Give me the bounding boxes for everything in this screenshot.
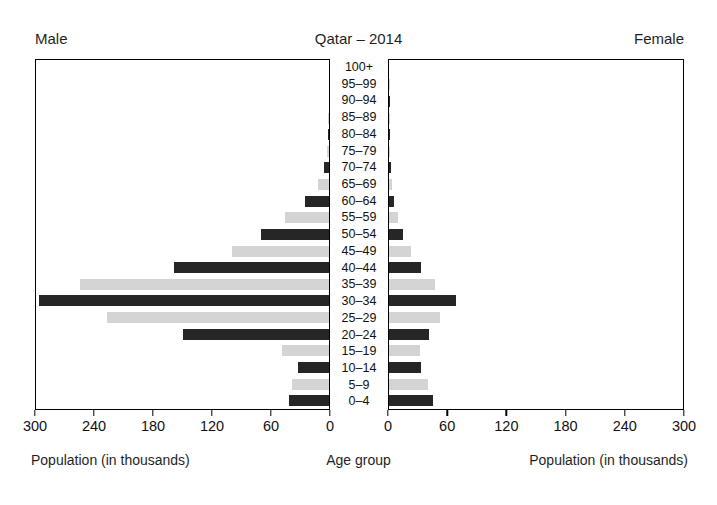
axis-tick [93,410,94,416]
bar-row [36,376,329,393]
axis-tick-label: 120 [200,418,224,434]
male-plot-panel [35,59,330,410]
male-bar-15-19 [282,345,329,356]
male-bar-65-69 [318,179,329,190]
male-bar-0-4 [289,395,329,406]
bar-row [36,392,329,409]
age-group-label: 80–84 [330,126,388,143]
bar-row [389,210,683,227]
male-bar-45-49 [232,246,329,257]
axis-tick [565,410,566,416]
female-bar-60-64 [389,196,394,207]
male-bar-80-84 [328,129,329,140]
population-pyramid-figure: Male Qatar – 2014 Female 0–45–910–1415–1… [0,0,717,505]
bar-row [389,77,683,94]
axis-tick-label: 240 [613,418,637,434]
male-bar-30-34 [39,295,329,306]
bar-row [36,343,329,360]
bar-row [36,226,329,243]
bar-row [389,293,683,310]
bar-row [389,343,683,360]
age-group-label: 75–79 [330,143,388,160]
bar-row [36,293,329,310]
male-bar-55-59 [285,212,329,223]
age-group-label: 35–39 [330,276,388,293]
bar-row [389,176,683,193]
age-group-label: 60–64 [330,193,388,210]
bar-row [36,243,329,260]
bar-row [36,193,329,210]
bar-row [389,359,683,376]
bar-row [36,309,329,326]
axis-tick-label: 60 [263,418,279,434]
axis-tick [329,410,330,416]
male-bar-25-29 [107,312,329,323]
age-group-label: 30–34 [330,293,388,310]
bar-row [389,276,683,293]
female-bar-50-54 [389,229,403,240]
male-bar-50-54 [261,229,329,240]
bar-row [389,392,683,409]
bar-row [36,326,329,343]
axis-tick [446,410,447,416]
age-group-label: 55–59 [330,209,388,226]
female-bar-40-44 [389,262,421,273]
female-bar-35-39 [389,279,435,290]
female-bar-80-84 [389,129,390,140]
axis-tick [270,410,271,416]
bar-row [36,259,329,276]
bar-row [389,60,683,77]
age-group-label: 50–54 [330,226,388,243]
female-bar-75-79 [389,146,390,157]
axis-tick-label: 120 [494,418,518,434]
female-header-label: Female [634,30,684,47]
female-bar-15-19 [389,345,420,356]
female-bar-0-4 [389,395,433,406]
female-bar-45-49 [389,246,411,257]
bar-row [36,110,329,127]
bar-row [36,143,329,160]
female-bar-5-9 [389,379,428,390]
axis-tick [211,410,212,416]
bar-row [389,110,683,127]
male-bar-40-44 [174,262,329,273]
axis-tick-label: 0 [384,418,392,434]
bar-row [36,160,329,177]
age-group-label: 5–9 [330,377,388,394]
age-group-label: 10–14 [330,360,388,377]
female-bar-rows [389,60,683,409]
bar-row [389,93,683,110]
bar-row [36,60,329,77]
male-bar-35-39 [80,279,329,290]
axis-tick [34,410,35,416]
female-bar-10-14 [389,362,421,373]
axis-tick-label: 300 [23,418,47,434]
female-bar-25-29 [389,312,440,323]
male-bar-rows [36,60,329,409]
age-group-label: 85–89 [330,109,388,126]
axis-tick-label: 60 [439,418,455,434]
axis-tick-label: 240 [82,418,106,434]
axis-tick-label: 180 [141,418,165,434]
axis-tick-label: 180 [553,418,577,434]
male-bar-75-79 [327,146,329,157]
bar-row [389,326,683,343]
bar-row [389,243,683,260]
bar-row [389,309,683,326]
bar-row [36,359,329,376]
male-bar-60-64 [305,196,329,207]
male-bar-5-9 [292,379,329,390]
female-bar-55-59 [389,212,398,223]
age-group-label: 40–44 [330,260,388,277]
male-bar-20-24 [183,329,329,340]
male-bar-85-89 [328,113,329,124]
male-bar-70-74 [324,162,329,173]
age-group-label: 20–24 [330,326,388,343]
bar-row [36,276,329,293]
female-x-axis: 060120180240300 [388,410,684,440]
bar-row [389,160,683,177]
bar-row [36,126,329,143]
axis-tick [387,410,388,416]
female-bar-30-34 [389,295,456,306]
axis-tick-label: 0 [326,418,334,434]
